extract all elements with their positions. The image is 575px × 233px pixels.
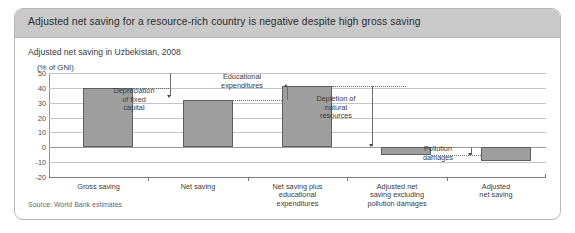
- category-label-line: expenditures: [248, 200, 347, 208]
- category-label-adjusted-net-saving-excluding-pollution-damages: Adjusted net saving excluding pollution …: [347, 183, 447, 208]
- category-axis-end-left: [49, 174, 50, 178]
- y-tick-40: 40: [38, 83, 46, 92]
- arrow-education-line: [287, 87, 288, 100]
- annotation-educational-expenditures: Educational expenditures: [211, 73, 273, 90]
- category-label-adjusted-net-saving: Adjusted net saving: [447, 183, 545, 200]
- annotation-line: damages: [411, 154, 465, 163]
- category-tick-1: [148, 177, 149, 181]
- chart-subtitle: Adjusted net saving in Uzbekistan, 2008: [28, 47, 181, 57]
- dotline-net-saving-level: [233, 100, 282, 101]
- y-tick-20: 20: [38, 113, 46, 122]
- arrow-pollution-head: [468, 153, 472, 156]
- category-label-line: Net saving: [148, 183, 248, 191]
- category-label-line: Gross saving: [49, 183, 148, 191]
- category-label-net-saving: Net saving: [148, 183, 248, 191]
- category-label-line: net saving: [447, 191, 545, 199]
- arrow-depreciation-line: [170, 73, 171, 96]
- category-axis-end-right: [545, 174, 546, 178]
- bar-adjusted-net-saving: [481, 147, 531, 160]
- arrow-education-head: [284, 84, 288, 87]
- category-tick-3: [347, 177, 348, 181]
- y-tick-0: 0: [42, 143, 46, 152]
- category-axis-line: [49, 177, 546, 178]
- y-tick-50: 50: [38, 69, 46, 78]
- category-tick-4: [447, 177, 448, 181]
- y-tick-30: 30: [38, 98, 46, 107]
- category-label-line: pollution damages: [347, 200, 447, 208]
- gridline-minus-10: [49, 162, 546, 163]
- annotation-line: expenditures: [211, 82, 273, 91]
- annotation-pollution-damages: Pollution damages: [411, 145, 465, 162]
- category-label-gross-saving: Gross saving: [49, 183, 148, 191]
- figure-header-band: Adjusted net saving for a resource-rich …: [15, 9, 560, 38]
- gridline-50: [49, 73, 546, 74]
- annotation-depreciation-of-fixed-capital: Depreciation of fixed capital: [103, 87, 165, 113]
- figure-panel: Adjusted net saving for a resource-rich …: [14, 8, 561, 220]
- source-note: Source: World Bank estimates: [28, 201, 122, 208]
- y-tick-10: 10: [38, 128, 46, 137]
- arrow-depletion-head: [369, 144, 373, 147]
- dotline-net-plus-education-top: [332, 86, 406, 87]
- category-tick-2: [248, 177, 249, 181]
- arrow-depletion-line: [372, 86, 373, 146]
- arrow-depreciation-head: [167, 95, 171, 98]
- annotation-line: capital: [103, 104, 165, 113]
- annotation-depletion-of-natural-resources: Depletion of natural resources: [305, 95, 367, 121]
- annotation-line: resources: [305, 112, 367, 121]
- y-tick-minus-10: -10: [36, 158, 46, 167]
- figure-header-title: Adjusted net saving for a resource-rich …: [28, 16, 421, 27]
- y-tick-minus-20: -20: [36, 173, 46, 182]
- bar-net-saving: [183, 100, 233, 148]
- category-label-net-saving-plus-educational-expenditures: Net saving plus educational expenditures: [248, 183, 347, 208]
